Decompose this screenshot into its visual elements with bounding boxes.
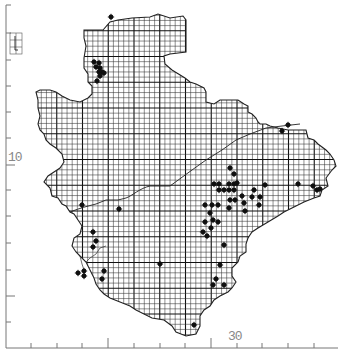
- survey-grid: [0, 0, 340, 351]
- record-dots: [75, 14, 323, 328]
- inset-grid-box: [10, 33, 22, 54]
- axis-label-30: 30: [228, 329, 242, 344]
- distribution-map: [0, 0, 340, 351]
- axis-label-10: 10: [8, 150, 22, 165]
